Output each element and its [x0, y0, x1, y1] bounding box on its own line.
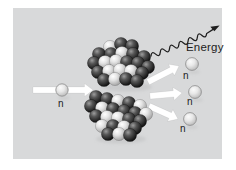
emitted-neutron-1: [186, 58, 199, 71]
incoming-neutron-label: n: [58, 99, 64, 109]
emitted-neutron-label-1: n: [183, 71, 189, 81]
emitted-neutron-spheres: [184, 58, 202, 126]
diagram-canvas: [0, 0, 236, 170]
fission-figure: Energy n n n n: [0, 0, 236, 170]
fission-fragment-lower: [84, 90, 152, 141]
energy-label: Energy: [186, 42, 224, 54]
incoming-neutron: [56, 84, 68, 96]
upper-fragment-dark-nucleon: [130, 74, 143, 87]
incoming-neutron-sphere: [56, 84, 68, 96]
lower-fragment-dark-nucleon: [123, 128, 136, 141]
fission-fragment-upper: [87, 37, 154, 87]
emitted-arrow-middle: [149, 87, 182, 103]
emitted-neutron-label-3: n: [180, 124, 186, 134]
emitted-neutron-label-2: n: [187, 97, 193, 107]
